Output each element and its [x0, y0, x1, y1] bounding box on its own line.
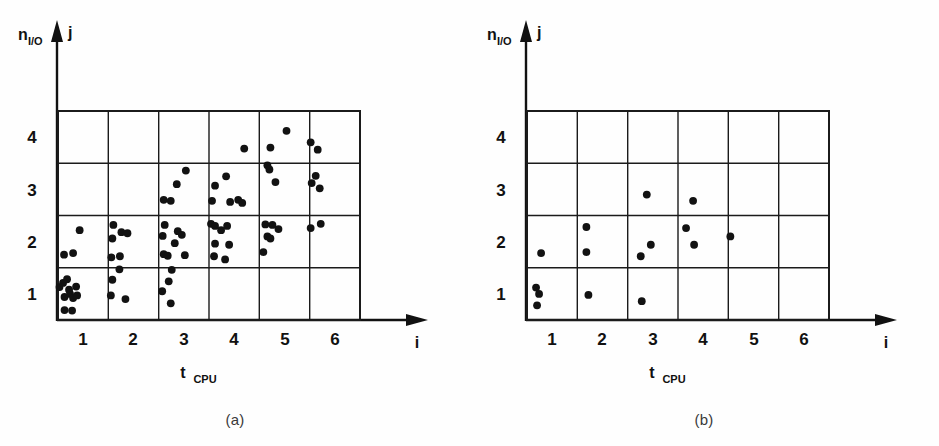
data-point [107, 253, 115, 261]
data-point [108, 276, 116, 284]
x-tick-4: 4 [698, 330, 708, 349]
data-point [208, 197, 216, 205]
data-point [73, 292, 81, 300]
data-point [168, 266, 176, 274]
x-tick-3: 3 [179, 330, 188, 349]
data-point [108, 235, 116, 243]
data-point [261, 220, 269, 228]
data-point [690, 241, 698, 249]
data-point [689, 197, 697, 205]
data-point [122, 295, 130, 303]
data-point [582, 248, 590, 256]
data-point [312, 172, 320, 180]
y-tick-4: 4 [496, 128, 506, 147]
x-tick-labels: 1 2 3 4 5 6 [547, 330, 808, 349]
y-axis-variable: j [67, 24, 72, 41]
x-axis-label-main: t [649, 364, 655, 381]
data-point [308, 179, 316, 187]
data-point [317, 220, 325, 228]
x-tick-2: 2 [597, 330, 606, 349]
x-tick-4: 4 [229, 330, 239, 349]
data-point [159, 232, 167, 240]
data-point [226, 198, 234, 206]
data-point [267, 235, 275, 243]
y-tick-labels: 1 2 3 4 [496, 128, 506, 304]
data-point [181, 251, 189, 259]
x-tick-6: 6 [799, 330, 808, 349]
data-point [116, 252, 124, 260]
x-tick-5: 5 [280, 330, 289, 349]
data-point [275, 225, 283, 233]
data-point [726, 233, 734, 241]
data-point [160, 196, 168, 204]
scatter-points-b [532, 191, 734, 310]
data-point [533, 301, 541, 309]
y-tick-1: 1 [27, 285, 36, 304]
data-point [116, 265, 124, 273]
data-point [263, 161, 271, 169]
x-axis-label-main: t [180, 364, 186, 381]
data-point [307, 138, 315, 146]
data-point [178, 231, 186, 239]
data-point [637, 252, 645, 260]
y-axis-variable: j [536, 24, 541, 41]
x-axis-arrow-icon [406, 314, 428, 326]
data-point [643, 191, 651, 199]
y-tick-4: 4 [27, 128, 37, 147]
data-point [316, 184, 324, 192]
data-point [647, 241, 655, 249]
panel-a-caption: (a) [0, 411, 470, 428]
panel-a-plot: n I/O j [0, 0, 470, 446]
x-tick-5: 5 [749, 330, 758, 349]
x-axis-variable: i [884, 334, 888, 351]
data-point [173, 180, 181, 188]
x-axis-label-sub: CPU [193, 373, 216, 385]
data-point [267, 144, 275, 152]
data-point [222, 172, 230, 180]
data-point [211, 182, 219, 190]
data-point [223, 222, 231, 230]
data-point [124, 229, 132, 237]
data-point [638, 297, 646, 305]
data-point [182, 167, 190, 175]
data-point [72, 283, 80, 291]
data-point [158, 287, 166, 295]
data-point [682, 224, 690, 232]
x-tick-1: 1 [78, 330, 87, 349]
y-axis-arrow-icon [520, 20, 532, 42]
data-point [61, 306, 69, 314]
panel-a: n I/O j [0, 0, 470, 446]
data-point [259, 248, 267, 256]
data-point [167, 299, 175, 307]
panel-b-plot: n I/O j 1 2 3 [469, 0, 939, 446]
y-tick-1: 1 [496, 285, 505, 304]
x-tick-2: 2 [128, 330, 137, 349]
y-tick-2: 2 [496, 233, 505, 252]
y-axis-label-main: n [487, 26, 497, 43]
data-point [283, 127, 291, 135]
data-point [76, 226, 84, 234]
figure-container: n I/O j [0, 0, 939, 446]
data-point [307, 224, 315, 232]
data-point [238, 199, 246, 207]
data-point [171, 239, 179, 247]
data-point [68, 307, 76, 315]
x-tick-3: 3 [648, 330, 657, 349]
data-point [63, 275, 71, 283]
scatter-points-a [56, 127, 325, 315]
x-axis-label-sub: CPU [662, 373, 685, 385]
data-point [272, 178, 280, 186]
data-point [167, 197, 175, 205]
data-point [107, 292, 115, 300]
y-axis-label-main: n [18, 26, 28, 43]
data-point [535, 290, 543, 298]
y-tick-3: 3 [27, 181, 36, 200]
data-point [537, 249, 545, 257]
data-point [240, 145, 248, 153]
panel-b: n I/O j 1 2 3 [469, 0, 939, 446]
y-axis-label-sub: I/O [497, 35, 512, 47]
data-point [585, 291, 593, 299]
data-point [65, 286, 73, 294]
x-tick-6: 6 [330, 330, 339, 349]
data-point [210, 252, 218, 260]
